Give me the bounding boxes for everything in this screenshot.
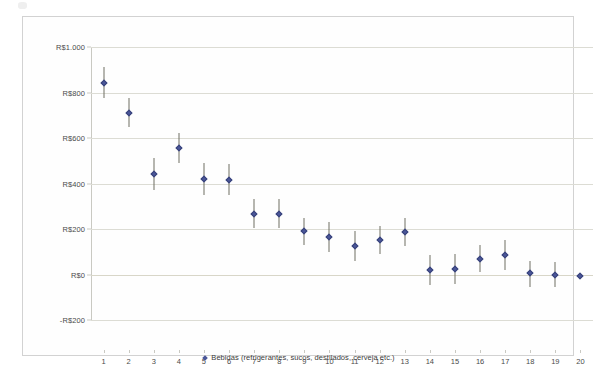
data-point-marker	[175, 145, 182, 152]
data-point-marker	[527, 270, 534, 277]
data-point-marker	[326, 233, 333, 240]
gridline	[91, 184, 593, 185]
gridline	[91, 275, 593, 276]
y-axis-tick-mark	[87, 320, 91, 321]
chart-frame: R$1.000R$800R$600R$400R$200R$0-R$2001234…	[22, 16, 574, 356]
y-axis-tick-label: R$200	[62, 225, 85, 234]
y-axis-tick-mark	[87, 183, 91, 184]
data-point-marker	[100, 80, 107, 87]
gridline	[91, 47, 593, 48]
y-axis-tick-mark	[87, 92, 91, 93]
data-point-marker	[477, 255, 484, 262]
legend-item-label: Bebidas (refrigerantes, sucos, destilado…	[211, 353, 394, 362]
data-point-marker	[401, 229, 408, 236]
y-axis-tick-mark	[87, 274, 91, 275]
y-axis-tick-mark	[87, 138, 91, 139]
legend-marker-icon	[203, 355, 209, 361]
screenshot-canvas: R$1.000R$800R$600R$400R$200R$0-R$2001234…	[0, 0, 596, 370]
y-axis-tick-mark	[87, 47, 91, 48]
data-point-marker	[426, 266, 433, 273]
data-point-marker	[451, 265, 458, 272]
x-axis-tick-label: 20	[576, 357, 584, 366]
x-axis-tick-mark	[580, 350, 581, 353]
y-axis-tick-label: R$400	[62, 179, 85, 188]
gridline	[91, 138, 593, 139]
y-axis-tick-label: R$0	[71, 270, 85, 279]
data-point-marker	[502, 252, 509, 259]
data-point-marker	[376, 237, 383, 244]
data-point-marker	[577, 272, 584, 279]
gridline	[91, 320, 593, 321]
data-point-marker	[200, 175, 207, 182]
data-point-marker	[251, 211, 258, 218]
y-axis-tick-mark	[87, 229, 91, 230]
y-axis-tick-label: R$800	[62, 88, 85, 97]
chart-legend: Bebidas (refrigerantes, sucos, destilado…	[23, 353, 575, 362]
scan-artifact	[18, 2, 27, 9]
data-point-marker	[552, 271, 559, 278]
y-axis-tick-label: R$1.000	[56, 43, 85, 52]
data-point-marker	[125, 109, 132, 116]
gridline	[91, 93, 593, 94]
y-axis-tick-label: -R$200	[60, 316, 85, 325]
plot-area: R$1.000R$800R$600R$400R$200R$0-R$2001234…	[91, 47, 593, 320]
data-point-marker	[276, 211, 283, 218]
y-axis-tick-label: R$600	[62, 134, 85, 143]
data-point-marker	[150, 171, 157, 178]
data-point-marker	[351, 243, 358, 250]
gridline	[91, 229, 593, 230]
